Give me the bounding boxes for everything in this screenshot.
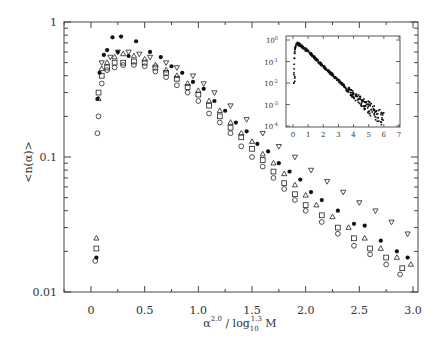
y-axis-label: <n(α)> — [22, 141, 35, 183]
y-tick-label: 0.01 — [33, 286, 58, 299]
inset-y-tick-label: 10-2 — [264, 78, 278, 88]
inset-x-tick-label: 7 — [397, 131, 401, 139]
y-tick-label: 1 — [50, 16, 57, 29]
inset-y-tick-label: 100 — [266, 35, 278, 45]
inset-x-tick-label: 3 — [336, 131, 340, 139]
inset-y-tick-label: 10-4 — [264, 121, 278, 131]
x-tick-label: 2.0 — [297, 304, 315, 317]
inset-x-tick-label: 4 — [351, 131, 356, 139]
inset-y-tick-label: 10-1 — [264, 57, 278, 67]
x-tick-label: 1.0 — [190, 304, 208, 317]
inset-x-tick-label: 6 — [382, 131, 387, 139]
inset-x-tick-label: 1 — [306, 131, 310, 139]
chart-figure: 00.51.01.52.02.53.0 0.010.11 01234567100… — [0, 0, 442, 342]
x-axis-label: α2.0 / log101.3 M — [203, 315, 276, 333]
x-tick-label: 2.5 — [351, 304, 369, 317]
inset-x-tick-label: 0 — [291, 131, 295, 139]
inset-plot: 0123456710010-110-210-310-4 — [264, 35, 401, 139]
inset-x-tick-label: 2 — [321, 131, 325, 139]
y-tick-label: 0.1 — [40, 151, 58, 164]
inset-x-tick-label: 5 — [366, 131, 370, 139]
x-tick-label: 3.0 — [404, 304, 422, 317]
x-tick-label: 0.5 — [136, 304, 154, 317]
inset-y-tick-label: 10-3 — [264, 100, 278, 110]
x-tick-label: 0 — [88, 304, 95, 317]
